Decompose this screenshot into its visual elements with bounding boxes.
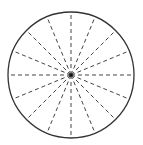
spoke-line [26, 75, 71, 120]
circle-diagram [0, 0, 143, 145]
spoke-line [26, 30, 71, 75]
center-point [69, 73, 72, 76]
spoke-line [71, 30, 116, 75]
spoke-line [71, 75, 116, 120]
